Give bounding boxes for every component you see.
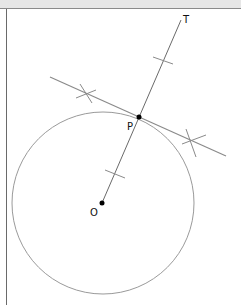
point-O-dot: [100, 201, 105, 206]
cross-mark-left: [76, 84, 96, 103]
cross-mark-right: [182, 129, 206, 157]
label-P: P: [127, 121, 133, 132]
point-P-dot: [137, 115, 142, 120]
label-O: O: [90, 207, 98, 218]
label-T: T: [182, 14, 190, 25]
tangent-construction-diagram: T P O: [0, 0, 241, 305]
tick-mark-lower: [105, 170, 125, 178]
radius-line-OT: [102, 20, 181, 203]
